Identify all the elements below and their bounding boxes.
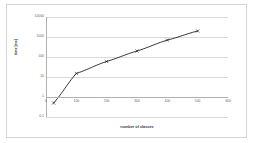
- y-tick-label: 1000: [36, 35, 44, 38]
- x-tick-label: 300: [134, 100, 140, 103]
- x-tick-label: 600: [225, 100, 231, 103]
- y-axis-tick-labels: 0.1110100100010000: [27, 17, 44, 117]
- x-tick-label: 0: [45, 100, 47, 103]
- x-axis-line: [46, 97, 228, 98]
- x-tick-label: 400: [164, 100, 170, 103]
- series-markers: [52, 29, 199, 104]
- x-tick-label: 100: [73, 100, 79, 103]
- x-axis-title: number of classes: [46, 126, 228, 130]
- series-polyline: [54, 31, 198, 103]
- x-axis-tick-labels: 0100200300400500600: [46, 100, 228, 108]
- x-tick-label: 200: [104, 100, 110, 103]
- chart-figure: 0.1110100100010000 time [ms] 01002003004…: [0, 0, 254, 143]
- y-tick-label: 0.1: [39, 115, 44, 118]
- chart-frame: 0.1110100100010000 time [ms] 01002003004…: [6, 4, 247, 138]
- y-tick-label: 100: [38, 55, 44, 58]
- y-tick-label: 10: [40, 75, 44, 78]
- y-axis-title: time [ms]: [15, 39, 19, 55]
- x-tick-label: 500: [195, 100, 201, 103]
- y-tick-label: 1: [42, 95, 44, 98]
- gridline: [46, 117, 228, 118]
- y-tick-label: 10000: [35, 15, 44, 18]
